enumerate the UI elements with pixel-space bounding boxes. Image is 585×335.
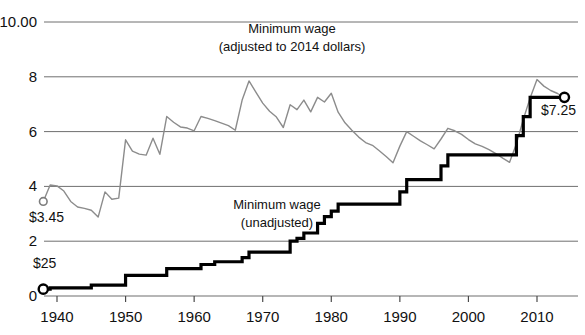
gridlines-group (44, 22, 578, 296)
x-axis-tick-label: 1950 (109, 308, 142, 325)
x-ticks-group (57, 296, 537, 302)
adjusted-start-marker (39, 198, 47, 206)
unadjusted-end-marker (560, 93, 569, 102)
x-axis-tick-label: 1940 (40, 308, 73, 325)
minimum-wage-chart: $10.0086420 1940195019601970198019902000… (0, 0, 585, 335)
y-axis-tick-label: $10.00 (0, 13, 37, 30)
x-axis-tick-label: 1990 (383, 308, 416, 325)
unadjusted-start-marker (39, 285, 48, 294)
y-axis-tick-label: 4 (29, 177, 37, 194)
chart-plot-area: $10.0086420 1940195019601970198019902000… (0, 0, 585, 335)
line-series-unadjusted (43, 97, 564, 289)
adjusted-series-label-line1: Minimum wage (248, 21, 335, 36)
x-axis-labels-group: 19401950196019701980199020002010 (40, 308, 553, 325)
adjusted-series-label-line2: (adjusted to 2014 dollars) (219, 39, 366, 54)
y-axis-tick-label: 6 (29, 123, 37, 140)
y-axis-tick-label: 2 (29, 232, 37, 249)
y-axis-labels-group: $10.0086420 (0, 13, 37, 304)
x-axis-tick-label: 1980 (315, 308, 348, 325)
unadjusted-series-label-line1: Minimum wage (233, 197, 320, 212)
x-axis-tick-label: 1960 (177, 308, 210, 325)
x-axis-tick-label: 2000 (452, 308, 485, 325)
series-group (43, 80, 564, 290)
unadjusted-end-value-label: $7.25 (541, 102, 576, 118)
y-axis-tick-label: 0 (29, 287, 37, 304)
endpoint-markers-group (39, 93, 569, 294)
unadjusted-series-label-line2: (unadjusted) (241, 215, 313, 230)
adjusted-start-value-label: $3.45 (29, 209, 64, 225)
y-axis-tick-label: 8 (29, 68, 37, 85)
unadjusted-start-value-label: $25 (33, 255, 57, 271)
x-axis-tick-label: 1970 (246, 308, 279, 325)
x-axis-tick-label: 2010 (520, 308, 553, 325)
